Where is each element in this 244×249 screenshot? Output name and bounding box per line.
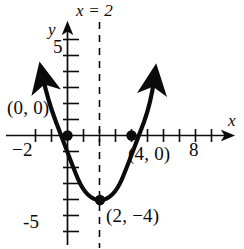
point-x-intercept-marker [126,130,136,140]
x-axis-label: x [228,112,236,129]
point-vertex-marker [95,195,105,205]
axis-of-symmetry-label: x = 2 [76,2,113,19]
x-tick-label-negative-2: −2 [12,140,33,159]
point-origin-marker [62,130,72,140]
parabola-curve-right-branch [100,80,154,200]
x-tick-label-8: 8 [189,140,199,159]
point-label-x-intercept: (4, 0) [128,144,170,163]
y-tick-label-5: 5 [53,37,63,56]
point-label-origin: (0, 0) [7,98,49,117]
y-tick-label-negative-5: -5 [23,212,39,231]
parabola-figure: x = 2 y x 5 -5 −2 8 (0, 0) (4, 0) (2, −4… [0,0,244,249]
point-label-vertex: (2, −4) [106,206,159,225]
